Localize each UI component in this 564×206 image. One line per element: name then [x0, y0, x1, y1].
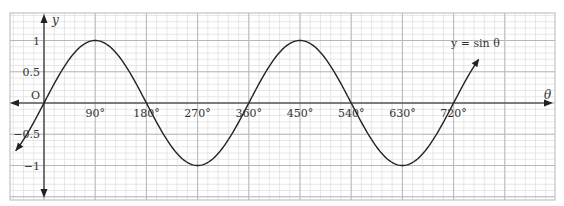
y-tick-label: −0.5 [13, 128, 40, 141]
x-tick-label: 630° [389, 107, 416, 120]
y-tick-label: 0.5 [23, 66, 41, 79]
x-tick-label: 90° [85, 107, 105, 120]
y-tick-label: −1 [24, 160, 40, 173]
y-axis-label: y [51, 13, 59, 27]
x-tick-label: 180° [133, 107, 160, 120]
x-tick-label: 270° [184, 107, 211, 120]
y-tick-label: 1 [33, 35, 40, 48]
x-tick-label: 450° [287, 107, 314, 120]
sine-graph: 90°180°270°360°450°540°630°720°10.5−0.5−… [0, 0, 564, 206]
x-axis-label: θ [544, 88, 552, 102]
origin-label: O [31, 89, 40, 102]
x-tick-label: 360° [236, 107, 263, 120]
function-label: y = sin θ [450, 37, 500, 50]
x-tick-label: 540° [338, 107, 365, 120]
x-tick-label: 720° [440, 107, 467, 120]
